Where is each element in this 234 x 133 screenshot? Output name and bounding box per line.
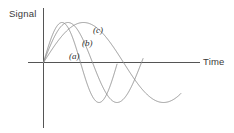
curve-label-b: (b): [82, 38, 93, 48]
curve-label-a: (a): [69, 51, 80, 61]
curve-label-c: (c): [93, 25, 103, 35]
signal-vs-time-figure: Signal Time (a) (b) (c): [0, 0, 234, 133]
plot-canvas: [0, 0, 234, 133]
axes: [28, 8, 200, 128]
x-axis-label: Time: [203, 56, 225, 67]
y-axis-label: Signal: [9, 8, 37, 19]
